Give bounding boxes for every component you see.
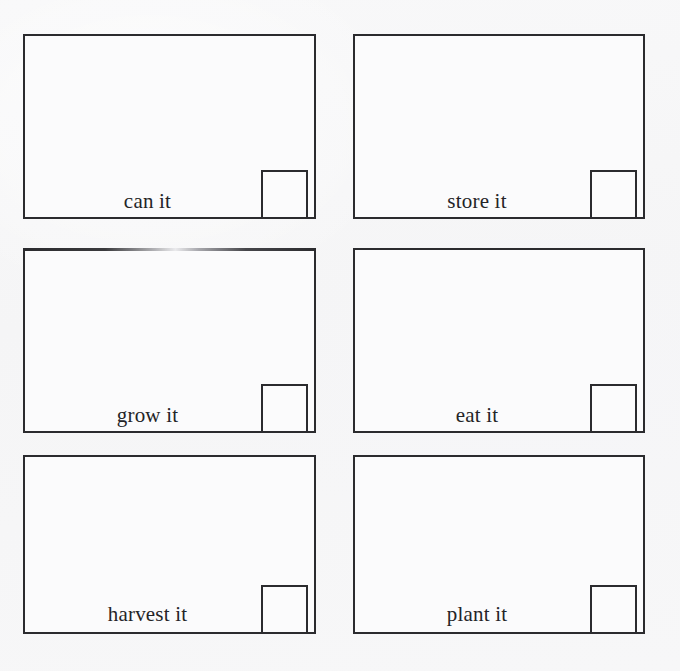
cell-plant-it[interactable]: plant it [353,455,645,634]
sheet: can it store it grow it eat i [0,0,680,671]
cell-label: store it [353,191,645,212]
cell-border-top [23,34,316,36]
cell-can-it[interactable]: can it [23,34,316,219]
cell-grid: can it store it grow it eat i [23,34,645,634]
cell-label: harvest it [23,604,316,625]
cell-label: plant it [353,604,645,625]
cell-border-top [353,455,645,457]
cell-border-top [353,34,645,36]
cell-store-it[interactable]: store it [353,34,645,219]
cell-border-top-faded [23,248,316,251]
cell-border-top [23,455,316,457]
cell-border-top [353,248,645,250]
cell-eat-it[interactable]: eat it [353,248,645,433]
cell-label: grow it [23,405,316,426]
cell-grow-it[interactable]: grow it [23,248,316,433]
cell-label: eat it [353,405,645,426]
cell-label: can it [23,191,316,212]
cell-harvest-it[interactable]: harvest it [23,455,316,634]
